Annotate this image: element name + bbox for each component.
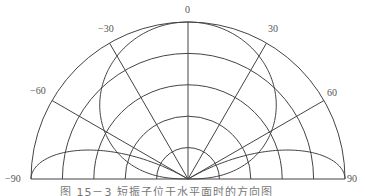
grid-radial-line bbox=[188, 101, 324, 180]
grid-radial-line bbox=[188, 43, 267, 179]
side-lobe-right-curve bbox=[188, 150, 345, 179]
angle-label-neg90: −90 bbox=[5, 174, 21, 184]
grid-radial-line bbox=[110, 43, 189, 179]
side-lobe-left-curve bbox=[31, 150, 188, 179]
grid-radial-line bbox=[52, 101, 188, 180]
polar-pattern-diagram bbox=[0, 0, 365, 196]
figure-caption: 图 15－3 短振子位于水平面时的方向图 bbox=[60, 186, 310, 196]
angle-label-60: 60 bbox=[327, 88, 337, 98]
angle-label-30: 30 bbox=[268, 24, 278, 34]
angle-label-0: 0 bbox=[185, 5, 190, 15]
angle-label-neg30: −30 bbox=[98, 24, 114, 34]
polar-grid-radial-lines bbox=[52, 22, 324, 179]
angle-label-neg60: −60 bbox=[30, 86, 46, 96]
angle-label-90: 90 bbox=[347, 174, 357, 184]
